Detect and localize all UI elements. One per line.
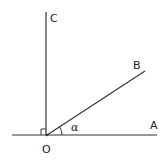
ray-OB [47,71,145,135]
point-O [46,134,49,137]
label-A: A [150,119,158,132]
label-O: O [42,143,51,156]
label-alpha: α [71,121,79,134]
right-angle-marker [41,129,46,135]
angle-alpha-arc [60,127,62,135]
angle-diagram: C B A O α [0,0,168,161]
label-C: C [50,12,58,25]
label-B: B [133,59,141,72]
